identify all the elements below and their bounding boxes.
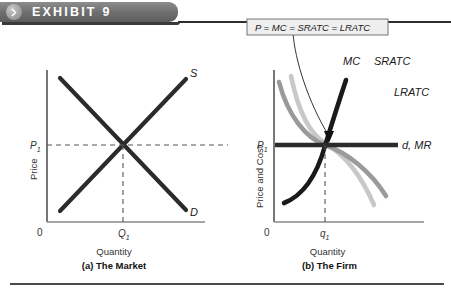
chevron-right-circle-icon (6, 4, 22, 20)
panel-market: S D P1 Q1 0 Price Quantity (a) The Marke… (0, 30, 228, 283)
panel-firm: MC SRATC LRATC d, MR P1 q1 0 P = MC = SR… (228, 30, 451, 283)
market-panel-caption: (a) The Market (0, 260, 228, 271)
demand-curve-label: D (190, 206, 198, 218)
sratc-curve-label: SRATC (374, 55, 411, 67)
market-quantity-tick: Q1 (118, 228, 130, 241)
firm-origin-label: 0 (264, 227, 270, 238)
market-x-axis-label: Quantity (0, 246, 228, 257)
lratc-curve-label: LRATC (394, 86, 429, 98)
exhibit-header: EXHIBIT 9 (0, 0, 451, 30)
firm-x-axis-label: Quantity (216, 246, 439, 257)
market-y-axis-label: Price (28, 158, 39, 180)
market-origin-label: 0 (37, 227, 43, 238)
header-banner-shadow (2, 22, 180, 25)
firm-panel-caption: (b) The Firm (218, 260, 441, 271)
market-price-tick: P1 (30, 140, 41, 153)
exhibit-title: EXHIBIT 9 (32, 4, 112, 20)
firm-y-axis-label: Price and Cost (254, 146, 265, 208)
demand-mr-curve-label: d, MR (402, 139, 431, 151)
firm-quantity-tick: q1 (320, 228, 330, 241)
header-rule (178, 21, 451, 23)
supply-curve-label: S (190, 67, 198, 79)
sratc-curve (291, 76, 374, 205)
mc-curve-label: MC (343, 55, 360, 67)
footer-rule (10, 283, 444, 285)
